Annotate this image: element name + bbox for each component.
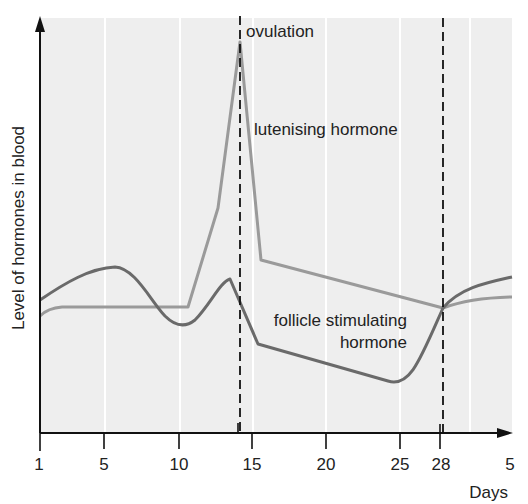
tick-label: 5 <box>505 455 514 474</box>
fsh-label-line2: hormone <box>340 333 407 352</box>
tick-label: 28 <box>432 455 451 474</box>
tick-label: 10 <box>170 455 189 474</box>
tick-label: 15 <box>243 455 262 474</box>
y-axis-label: Level of hormones in blood <box>9 126 28 330</box>
x-axis-label: Days <box>469 483 508 502</box>
tick-label: 25 <box>391 455 410 474</box>
fsh-label-line1: follicle stimulating <box>274 311 407 330</box>
plot-area <box>40 18 512 433</box>
tick-label: 1 <box>34 455 43 474</box>
tick-label: 20 <box>317 455 336 474</box>
ovulation-label: ovulation <box>246 22 314 41</box>
lh-label: lutenising hormone <box>254 120 398 139</box>
tick-label: 5 <box>99 455 108 474</box>
hormone-level-chart: 1 5 10 15 20 25 28 5 Level of hormones i… <box>0 0 528 504</box>
x-tick-labels: 1 5 10 15 20 25 28 5 <box>34 455 514 474</box>
